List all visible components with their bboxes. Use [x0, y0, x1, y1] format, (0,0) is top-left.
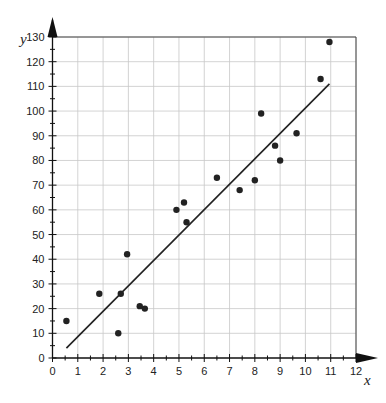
data-point — [118, 291, 124, 297]
data-point — [183, 219, 189, 225]
y-axis-label: y — [18, 31, 27, 47]
x-axis-arrow-icon — [356, 353, 378, 363]
y-tick-label: 10 — [32, 327, 44, 339]
y-tick-label: 90 — [32, 130, 44, 142]
y-tick-label: 100 — [26, 105, 44, 117]
data-point — [115, 330, 121, 336]
data-point — [96, 291, 102, 297]
x-tick-label: 7 — [226, 365, 232, 377]
data-point — [252, 177, 258, 183]
y-tick-label: 80 — [32, 154, 44, 166]
data-point — [142, 305, 148, 311]
scatter-chart: 0123456789101112010203040506070809010011… — [0, 0, 386, 403]
grid — [53, 37, 357, 358]
data-point — [236, 187, 242, 193]
y-tick-label: 30 — [32, 278, 44, 290]
y-tick-label: 60 — [32, 204, 44, 216]
x-tick-label: 10 — [299, 365, 311, 377]
data-point — [181, 199, 187, 205]
x-tick-label: 6 — [201, 365, 207, 377]
y-tick-label: 70 — [32, 179, 44, 191]
data-point — [317, 76, 323, 82]
y-tick-label: 20 — [32, 303, 44, 315]
y-tick-label: 0 — [38, 352, 44, 364]
y-tick-label: 130 — [26, 31, 44, 43]
y-axis-arrow-icon — [48, 17, 58, 37]
data-point — [272, 142, 278, 148]
data-point — [277, 157, 283, 163]
data-point — [326, 39, 332, 45]
x-tick-label: 0 — [49, 365, 55, 377]
x-tick-label: 9 — [277, 365, 283, 377]
y-tick-label: 120 — [26, 56, 44, 68]
axes — [48, 17, 379, 363]
x-tick-label: 4 — [151, 365, 157, 377]
y-tick-label: 50 — [32, 229, 44, 241]
data-point — [173, 207, 179, 213]
ticks: 0123456789101112010203040506070809010011… — [26, 31, 362, 377]
data-point — [293, 130, 299, 136]
x-axis-label: x — [363, 372, 371, 388]
x-tick-label: 12 — [350, 365, 362, 377]
data-point — [214, 175, 220, 181]
x-tick-label: 11 — [325, 365, 336, 377]
y-tick-label: 110 — [27, 80, 45, 92]
points-group — [63, 39, 332, 337]
x-tick-label: 1 — [75, 365, 81, 377]
data-point — [258, 110, 264, 116]
x-tick-label: 8 — [252, 365, 258, 377]
y-tick-label: 40 — [32, 253, 44, 265]
data-point — [124, 251, 130, 257]
x-tick-label: 2 — [100, 365, 106, 377]
x-tick-label: 3 — [125, 365, 131, 377]
x-tick-label: 5 — [176, 365, 182, 377]
data-point — [63, 318, 69, 324]
